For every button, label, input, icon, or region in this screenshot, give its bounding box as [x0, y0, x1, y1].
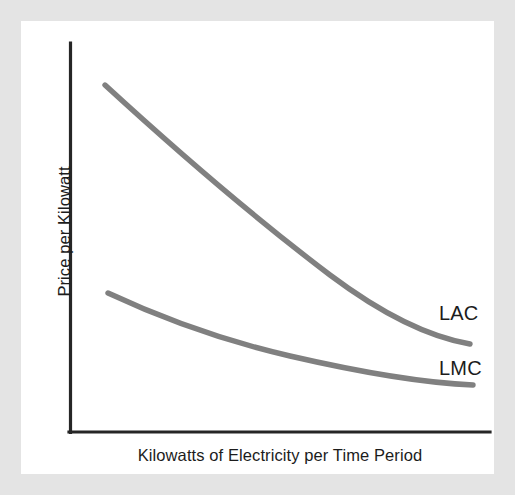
x-axis-title: Kilowatts of Electricity per Time Period	[70, 446, 490, 465]
lac-curve-label: LAC	[439, 302, 479, 324]
lmc-curve	[108, 293, 473, 385]
economics-cost-curve-figure: LAC LMC Kilowatts of Electricity per Tim…	[0, 0, 515, 495]
y-axis-title: Price per Kilowatt	[55, 132, 74, 332]
plot-area: LAC LMC	[0, 0, 515, 495]
lac-curve	[105, 85, 470, 344]
lmc-curve-label: LMC	[439, 357, 482, 379]
